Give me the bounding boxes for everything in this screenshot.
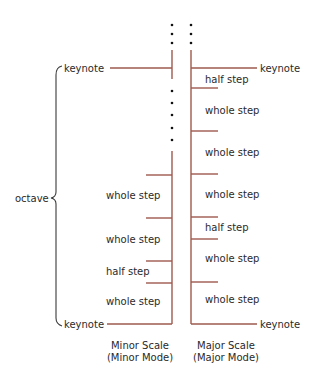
minor-bottom-keynote-label: keynote (64, 319, 104, 330)
minor-step-label: whole step (106, 190, 160, 201)
minor-step-label: whole step (106, 296, 160, 307)
minor-caption-subtitle: (Minor Mode) (107, 352, 173, 363)
major-step-label: whole step (205, 189, 259, 200)
major-step-label: half step (205, 222, 249, 233)
major-step-label: whole step (205, 294, 259, 305)
major-caption-title: Major Scale (197, 340, 255, 351)
major-step-label: whole step (205, 147, 259, 158)
minor-gap-ellipsis (171, 90, 174, 142)
major-caption-subtitle: (Major Mode) (193, 352, 259, 363)
minor-top-ellipsis (171, 24, 174, 45)
minor-step-label: whole step (106, 234, 160, 245)
minor-caption-title: Minor Scale (111, 340, 169, 351)
major-step-label: half step (205, 74, 249, 85)
major-top-keynote-label: keynote (260, 63, 300, 74)
minor-step-label: half step (106, 266, 150, 277)
major-step-label: whole step (205, 105, 259, 116)
major-top-ellipsis (190, 24, 193, 45)
octave-brace (51, 66, 62, 326)
minor-top-keynote-label: keynote (64, 63, 104, 74)
scale-diagram: keynote octave keynote whole step whole … (0, 0, 320, 382)
octave-label: octave (15, 193, 49, 204)
major-bottom-keynote-label: keynote (260, 319, 300, 330)
major-step-label: whole step (205, 253, 259, 264)
